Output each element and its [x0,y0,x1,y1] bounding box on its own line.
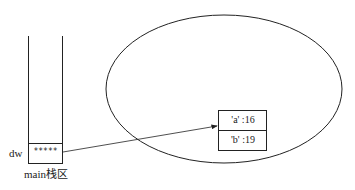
stack-label: main栈区 [24,168,68,180]
object-field-b: 'b' :19 [219,134,267,145]
diagram-canvas [0,0,355,190]
reference-arrow [63,126,217,152]
variable-name-label: dw [9,147,22,159]
object-field-a: 'a' :16 [219,114,267,125]
stack-cell-value: ***** [29,147,62,156]
